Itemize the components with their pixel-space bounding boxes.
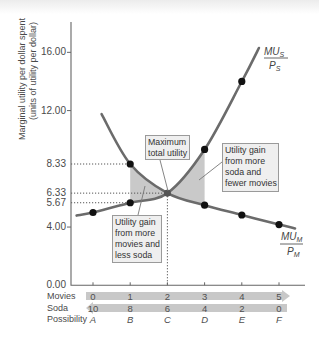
row-value-possibility: B bbox=[120, 314, 140, 325]
annotation-maximum-total-utility: Maximumtotal utility bbox=[145, 135, 190, 160]
row-label-possibility: Possibility bbox=[47, 314, 87, 325]
annotation-line: total utility bbox=[148, 148, 187, 159]
row-value-possibility: D bbox=[195, 314, 215, 325]
y-tick-label: 5.67 bbox=[0, 197, 66, 209]
annotation-line: less soda bbox=[115, 250, 159, 261]
series-label-denominator: PS bbox=[269, 60, 280, 74]
data-point bbox=[127, 160, 134, 167]
row-value-soda: 2 bbox=[232, 303, 252, 314]
row-value-movies: 3 bbox=[195, 291, 215, 302]
movies-arrow-band bbox=[86, 290, 290, 302]
data-point bbox=[238, 78, 245, 85]
denominator-text: P bbox=[269, 60, 276, 71]
row-label-soda: Soda bbox=[47, 303, 68, 314]
row-value-possibility: F bbox=[269, 314, 289, 325]
annotation-line: from more bbox=[115, 228, 159, 239]
annotation-line: Maximum bbox=[148, 137, 187, 148]
numerator-text: MU bbox=[281, 231, 297, 242]
row-label-movies: Movies bbox=[47, 291, 76, 302]
y-axis-label: (units of utility per dollar) bbox=[28, 0, 38, 146]
data-point bbox=[275, 221, 282, 228]
annotation-line: Utility gain bbox=[225, 145, 276, 156]
mu-per-dollar-chart: 16.0012.008.336.335.674.000.00Marginal u… bbox=[0, 0, 319, 344]
soda-arrow-band bbox=[86, 302, 287, 314]
row-value-movies: 4 bbox=[232, 291, 252, 302]
y-axis-label: Marginal utility per dollar spent bbox=[17, 4, 27, 154]
data-point bbox=[89, 209, 96, 216]
series-label-numerator: MUM bbox=[281, 231, 302, 245]
row-value-possibility: A bbox=[83, 314, 103, 325]
row-value-possibility: C bbox=[157, 314, 177, 325]
row-value-movies: 5 bbox=[269, 291, 289, 302]
row-value-soda: 6 bbox=[157, 303, 177, 314]
data-point bbox=[201, 202, 208, 209]
denominator-subscript: M bbox=[294, 251, 300, 258]
y-tick-label: 8.33 bbox=[0, 158, 66, 170]
row-value-possibility: E bbox=[232, 314, 252, 325]
y-tick-label: 4.00 bbox=[0, 221, 66, 233]
annotation-line: from more bbox=[225, 156, 276, 167]
row-value-soda: 10 bbox=[83, 303, 103, 314]
denominator-subscript: S bbox=[276, 65, 281, 72]
annotation-pointer bbox=[160, 160, 168, 191]
data-point bbox=[127, 199, 134, 206]
annotation-line: Utility gain bbox=[115, 217, 159, 228]
row-value-soda: 0 bbox=[269, 303, 289, 314]
data-point bbox=[238, 211, 245, 218]
numerator-text: MU bbox=[264, 46, 280, 57]
equilibrium-point bbox=[164, 190, 171, 197]
data-point bbox=[201, 146, 208, 153]
row-value-movies: 0 bbox=[83, 291, 103, 302]
series-label-denominator: PM bbox=[287, 246, 300, 260]
numerator-subscript: S bbox=[280, 51, 285, 58]
denominator-text: P bbox=[287, 246, 294, 257]
series-label-numerator: MUS bbox=[264, 46, 284, 60]
annotation-gain-more-soda: Utility gainfrom moresoda andfewer movie… bbox=[222, 143, 279, 192]
annotation-line: fewer movies bbox=[225, 178, 276, 189]
annotation-line: movies and bbox=[115, 239, 159, 250]
annotation-gain-more-movies: Utility gainfrom moremovies andless soda bbox=[112, 215, 162, 263]
row-value-movies: 1 bbox=[120, 291, 140, 302]
row-value-soda: 8 bbox=[120, 303, 140, 314]
annotation-line: soda and bbox=[225, 167, 276, 178]
row-value-soda: 4 bbox=[195, 303, 215, 314]
y-tick-label: 0.00 bbox=[0, 279, 66, 291]
row-value-movies: 2 bbox=[157, 291, 177, 302]
numerator-subscript: M bbox=[297, 236, 303, 243]
